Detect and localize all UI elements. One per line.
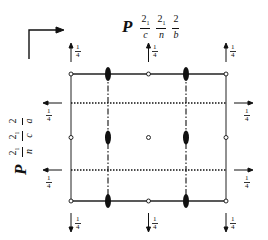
height-label: 14 — [46, 175, 52, 190]
inversion-center-icons — [69, 72, 228, 203]
axis-arrow-icon — [29, 27, 64, 59]
symbol-part: 2 b — [172, 14, 179, 40]
symbol-part: 21 c — [140, 14, 150, 40]
left-space-group-symbol: P 21 n 21 c 2 a — [8, 117, 34, 175]
symbol-part: 21 c — [8, 131, 34, 141]
height-label: 14 — [244, 175, 250, 190]
lattice-letter: P — [11, 165, 30, 175]
height-label: 14 — [230, 44, 236, 59]
lattice-letter: P — [122, 17, 132, 36]
height-label: 14 — [152, 216, 158, 231]
symbol-part: 2 a — [8, 118, 34, 125]
top-space-group-symbol: P 21 c 21 n 2 b — [122, 14, 180, 40]
top-arrow-icons — [69, 43, 228, 62]
height-label: 14 — [244, 108, 250, 123]
height-label: 14 — [75, 216, 81, 231]
symbol-part: 21 n — [156, 14, 166, 40]
height-label: 14 — [152, 44, 158, 59]
height-label: 14 — [75, 44, 81, 59]
height-label: 14 — [46, 108, 52, 123]
height-label: 14 — [230, 216, 236, 231]
bottom-arrow-icons — [69, 213, 228, 232]
symbol-part: 21 n — [8, 147, 34, 157]
